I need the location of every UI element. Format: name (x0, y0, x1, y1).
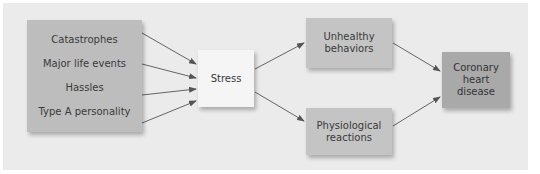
unhealthy-behaviors-box: Unhealthy behaviors (306, 18, 392, 68)
physiological-reactions-label: Physiological reactions (309, 120, 389, 144)
coronary-heart-disease-box: Coronary heart disease (442, 52, 510, 108)
arrow-catastrophes-stress (142, 33, 196, 64)
arrow-stress-unhealthy (255, 43, 304, 69)
physiological-reactions-box: Physiological reactions (306, 108, 392, 155)
stress-label: Stress (211, 73, 242, 85)
stressor-catastrophes: Catastrophes (51, 34, 117, 46)
arrow-major-life-events-stress (142, 64, 196, 78)
arrow-unhealthy-coronary (393, 43, 440, 71)
unhealthy-behaviors-label: Unhealthy behaviors (317, 31, 381, 55)
stressors-box: Catastrophes Major life events Hassles T… (27, 20, 142, 132)
arrow-physiological-coronary (393, 97, 440, 126)
coronary-heart-disease-label: Coronary heart disease (448, 62, 504, 98)
arrow-stress-physiological (255, 92, 304, 121)
stressor-major-life-events: Major life events (43, 58, 126, 70)
stressor-hassles: Hassles (65, 82, 103, 94)
stress-box: Stress (198, 50, 254, 107)
arrow-hassles-stress (142, 89, 196, 95)
arrow-type-a-stress (142, 101, 196, 123)
stressor-type-a-personality: Type A personality (39, 106, 131, 118)
